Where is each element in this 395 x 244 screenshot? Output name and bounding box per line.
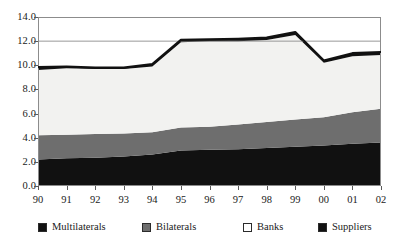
x-tick-label: 91 <box>54 194 80 206</box>
legend-item-suppliers[interactable]: Suppliers <box>318 219 372 235</box>
x-tick-label: 97 <box>225 194 251 206</box>
x-axis: 90919293949596979899000102 <box>38 190 381 206</box>
x-tick-mark <box>324 186 325 190</box>
legend-item-bilaterals[interactable]: Bilaterals <box>142 219 196 235</box>
y-tick-label: 4.0 <box>2 133 36 143</box>
y-tick-label: 10.0 <box>2 60 36 70</box>
y-tick-label: 8.0 <box>2 84 36 94</box>
x-tick-label: 99 <box>282 194 308 206</box>
x-tick-mark <box>295 186 296 190</box>
x-tick-mark <box>67 186 68 190</box>
y-tick-label: 14.0 <box>2 12 36 22</box>
legend-label: Banks <box>257 221 283 233</box>
x-tick-label: 92 <box>82 194 108 206</box>
x-tick-mark <box>381 186 382 190</box>
x-tick-mark <box>267 186 268 190</box>
legend-swatch-icon <box>243 223 252 232</box>
x-tick-mark <box>352 186 353 190</box>
y-tick-label: 0.0 <box>2 181 36 191</box>
legend-label: Bilaterals <box>156 221 196 233</box>
x-tick-label: 02 <box>368 194 394 206</box>
stacked-area-chart: 0.02.04.06.08.010.012.014.0 909192939495… <box>0 0 395 244</box>
legend-swatch-icon <box>142 223 151 232</box>
x-tick-label: 98 <box>254 194 280 206</box>
x-tick-label: 00 <box>311 194 337 206</box>
legend-label: Suppliers <box>332 221 372 233</box>
x-tick-label: 96 <box>197 194 223 206</box>
legend-item-banks[interactable]: Banks <box>243 219 283 235</box>
x-tick-mark <box>152 186 153 190</box>
x-tick-label: 90 <box>25 194 51 206</box>
chart-legend: MultilateralsBilateralsBanksSuppliers <box>0 219 395 239</box>
x-tick-label: 95 <box>168 194 194 206</box>
x-tick-label: 01 <box>339 194 365 206</box>
x-tick-mark <box>95 186 96 190</box>
x-tick-mark <box>38 186 39 190</box>
x-tick-mark <box>124 186 125 190</box>
y-tick-label: 12.0 <box>2 36 36 46</box>
x-tick-mark <box>238 186 239 190</box>
x-tick-label: 94 <box>139 194 165 206</box>
y-tick-label: 2.0 <box>2 157 36 167</box>
y-tick-label: 6.0 <box>2 109 36 119</box>
legend-swatch-icon <box>38 223 47 232</box>
x-tick-mark <box>181 186 182 190</box>
y-axis: 0.02.04.06.08.010.012.014.0 <box>0 0 36 200</box>
legend-item-multilaterals[interactable]: Multilaterals <box>38 219 106 235</box>
stacked-area-svg <box>38 17 381 186</box>
legend-label: Multilaterals <box>52 221 106 233</box>
x-tick-label: 93 <box>111 194 137 206</box>
legend-swatch-icon <box>318 223 327 232</box>
x-tick-mark <box>210 186 211 190</box>
plot-area <box>38 17 381 186</box>
